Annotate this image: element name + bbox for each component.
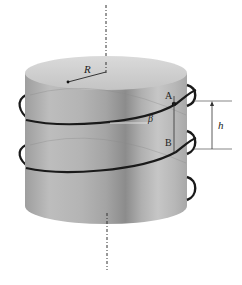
helix-right-loop-3 [187,177,195,200]
helix-cylinder-diagram: R A B β h [0,0,242,285]
pitch-label: h [218,119,224,131]
cylinder-body [25,73,187,224]
point-b-label: B [165,137,172,148]
radius-endpoint [67,81,70,84]
point-a-label: A [165,90,173,101]
radius-label: R [83,63,91,75]
angle-beta-label: β [147,113,153,124]
pitch-arrow-head [210,101,214,106]
